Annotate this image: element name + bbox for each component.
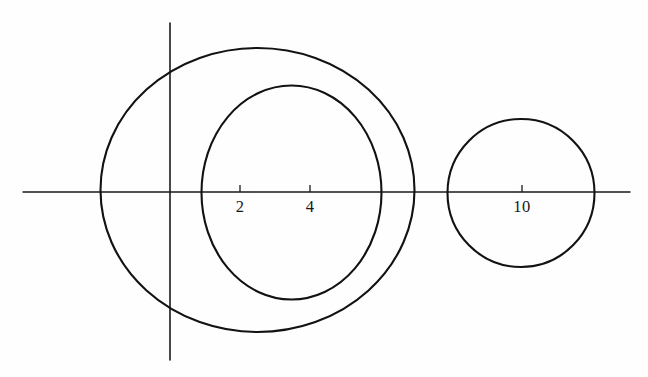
tick-label-10: 10 [513, 197, 530, 216]
figure-canvas: 2 4 10 [0, 0, 648, 377]
tick-label-4: 4 [306, 197, 315, 216]
number-line-circle-diagram: 2 4 10 [0, 0, 648, 377]
tick-label-2: 2 [236, 197, 245, 216]
large-circle [101, 48, 415, 332]
right-circle [448, 119, 595, 267]
